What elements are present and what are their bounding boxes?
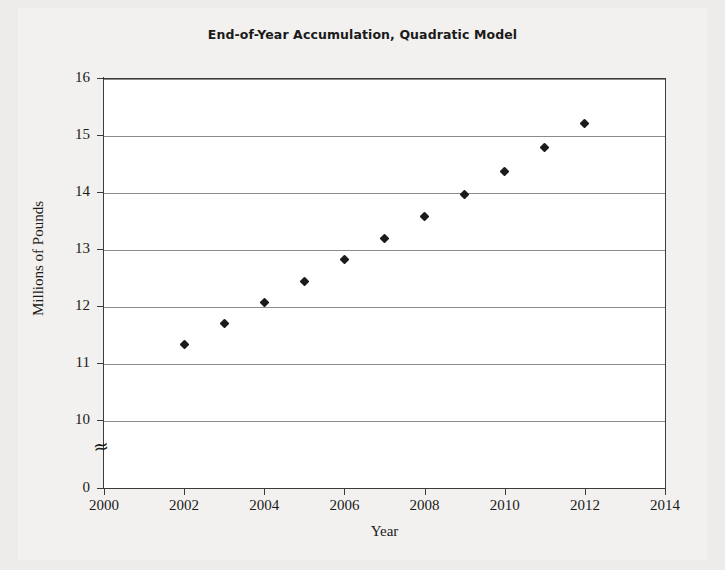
data-point: [179, 339, 189, 349]
y-tick-11: [97, 363, 104, 364]
x-tick-label-2010: 2010: [470, 497, 540, 514]
x-axis-line: [103, 488, 666, 489]
x-axis-title: Year: [104, 523, 665, 540]
y-tick-10: [97, 420, 104, 421]
x-tick-label-2000: 2000: [69, 497, 139, 514]
gridline-11: [104, 364, 665, 365]
x-tick-2006: [344, 488, 345, 495]
x-tick-label-2006: 2006: [309, 497, 379, 514]
data-point: [380, 234, 390, 244]
data-point: [580, 119, 590, 129]
y-tick-label-0: 0: [30, 479, 90, 496]
y-tick-12: [97, 306, 104, 307]
chart-figure: End-of-Year Accumulation, Quadratic Mode…: [0, 0, 725, 570]
data-point: [339, 255, 349, 265]
gridline-14: [104, 193, 665, 194]
y-tick-0: [97, 488, 104, 489]
x-tick-2010: [505, 488, 506, 495]
y-tick-label-16: 16: [30, 69, 90, 86]
x-tick-2000: [104, 488, 105, 495]
data-point: [259, 297, 269, 307]
chart-title: End-of-Year Accumulation, Quadratic Mode…: [0, 27, 725, 42]
y-tick-label-15: 15: [30, 126, 90, 143]
y-tick-15: [97, 135, 104, 136]
data-point: [219, 318, 229, 328]
y-tick-16: [97, 78, 104, 79]
data-point: [540, 143, 550, 153]
x-tick-2014: [665, 488, 666, 495]
gridline-12: [104, 307, 665, 308]
y-axis-title: Millions of Pounds: [30, 159, 47, 359]
gridline-15: [104, 136, 665, 137]
x-tick-label-2002: 2002: [149, 497, 219, 514]
x-tick-2002: [184, 488, 185, 495]
data-point: [460, 190, 470, 200]
gridline-13: [104, 250, 665, 251]
x-tick-2012: [585, 488, 586, 495]
y-tick-label-10: 10: [30, 411, 90, 428]
x-tick-2008: [425, 488, 426, 495]
y-tick-13: [97, 249, 104, 250]
axis-break-symbol: ≈: [92, 436, 110, 457]
plot-area: [104, 78, 666, 488]
data-point: [299, 277, 309, 287]
data-point: [420, 212, 430, 222]
x-tick-label-2004: 2004: [229, 497, 299, 514]
x-tick-label-2008: 2008: [390, 497, 460, 514]
x-tick-label-2014: 2014: [630, 497, 700, 514]
x-tick-2004: [264, 488, 265, 495]
gridline-16: [104, 79, 665, 80]
y-tick-14: [97, 192, 104, 193]
x-tick-label-2012: 2012: [550, 497, 620, 514]
y-axis-line: [103, 77, 104, 489]
data-point: [500, 166, 510, 176]
gridline-10: [104, 421, 665, 422]
